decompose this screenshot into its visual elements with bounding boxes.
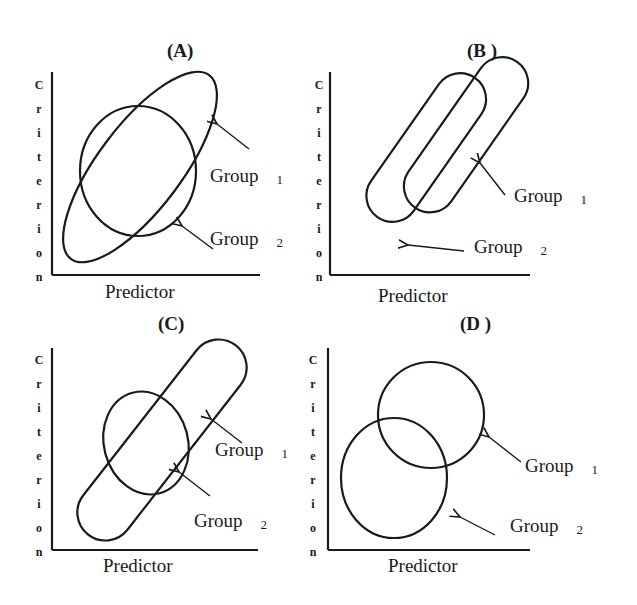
panel-a-arrow-1 [217,124,249,149]
panel-c-arrow-2 [179,472,210,496]
panel-c-axes [52,348,258,550]
panel-a-axes [52,72,260,275]
panel-b-arrow-2 [408,245,464,251]
diagram-drawing [0,0,637,605]
panel-a-arrow-2 [182,226,213,249]
panel-d-axes [328,348,530,550]
panel-c-arrow-1 [211,419,242,443]
panel-c-group-1-ellipse [66,328,258,552]
panel-b-arrow-1 [480,163,505,195]
panel-d-arrow-1 [489,437,521,462]
panel-d-arrow-2 [460,517,495,535]
panel-b-axes [330,72,530,275]
panel-d-group-2-circle [341,418,447,538]
panel-d-group-1-circle [378,362,484,468]
panel-a-group-2-ellipse [80,106,196,236]
panel-c-group-2-ellipse [92,382,200,504]
